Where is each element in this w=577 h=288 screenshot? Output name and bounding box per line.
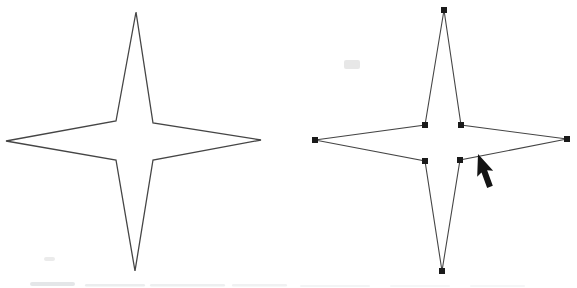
scan-artifact — [30, 282, 75, 286]
scan-artifact — [85, 284, 145, 287]
star-shape-selected — [315, 10, 567, 271]
drawing-canvas[interactable] — [0, 0, 577, 288]
anchor-handle[interactable] — [441, 7, 447, 13]
anchor-handle[interactable] — [439, 268, 445, 274]
scan-artifact — [44, 257, 55, 261]
anchor-handle[interactable] — [312, 137, 318, 143]
anchor-handle[interactable] — [564, 136, 570, 142]
star-shape-left — [6, 12, 261, 271]
canvas-svg[interactable] — [0, 0, 577, 288]
anchor-handle[interactable] — [458, 122, 464, 128]
scan-artifact — [470, 285, 525, 287]
scan-artifact — [300, 285, 370, 287]
anchor-handle[interactable] — [457, 157, 463, 163]
scan-artifact — [150, 284, 225, 287]
star-outline-selected[interactable] — [315, 10, 567, 271]
scan-artifact — [232, 284, 287, 287]
anchor-handle[interactable] — [422, 122, 428, 128]
scan-artifact — [344, 60, 360, 69]
scan-artifact — [390, 285, 450, 287]
anchor-handle[interactable] — [422, 158, 428, 164]
star-outline-left[interactable] — [6, 12, 261, 271]
